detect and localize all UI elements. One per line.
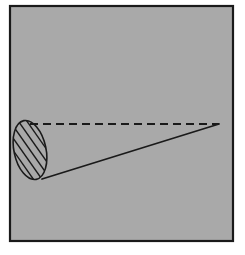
figure-root bbox=[0, 0, 245, 255]
cone-diagram-svg bbox=[0, 0, 245, 255]
